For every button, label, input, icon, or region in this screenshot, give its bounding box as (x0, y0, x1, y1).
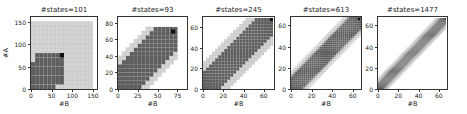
x-tick-label: 0 (116, 92, 120, 99)
y-tick-mark (200, 27, 202, 28)
y-tick-label: 0 (357, 86, 373, 93)
y-tick-mark (200, 48, 202, 49)
y-tick-label: 40 (182, 44, 198, 51)
x-tick-label: 60 (435, 92, 443, 99)
x-tick-label: 40 (415, 92, 423, 99)
y-tick-mark (200, 89, 202, 90)
x-axis-label: #B (408, 100, 418, 108)
y-tick-mark (375, 25, 377, 26)
y-tick-label: 60 (97, 36, 113, 43)
y-tick-mark (28, 44, 30, 45)
y-tick-label: 50 (10, 63, 26, 70)
heatmap-axes (202, 16, 275, 90)
x-tick-label: 75 (174, 92, 182, 99)
y-tick-label: 60 (357, 22, 373, 29)
x-tick-label: 25 (134, 92, 142, 99)
heatmap-cells (31, 17, 97, 89)
heatmap-cells (291, 17, 361, 89)
y-tick-label: 0 (270, 86, 286, 93)
y-tick-label: 40 (270, 43, 286, 50)
x-axis-label: #B (148, 100, 158, 108)
y-tick-label: 40 (357, 43, 373, 50)
heatmap-axes (117, 16, 188, 90)
heatmap-axes (290, 16, 362, 90)
x-tick-label: 50 (154, 92, 162, 99)
x-tick-label: 100 (67, 92, 78, 99)
y-tick-mark (115, 89, 117, 90)
subplot-title: #states=613 (290, 6, 362, 14)
y-tick-mark (28, 89, 30, 90)
heatmap-cells (203, 17, 274, 89)
x-tick-label: 40 (328, 92, 336, 99)
x-tick-label: 0 (289, 92, 293, 99)
y-tick-mark (200, 68, 202, 69)
y-tick-label: 20 (270, 64, 286, 71)
y-tick-mark (28, 22, 30, 23)
y-tick-mark (375, 89, 377, 90)
y-tick-label: 0 (10, 86, 26, 93)
x-tick-label: 50 (48, 92, 56, 99)
x-axis-label: #B (59, 100, 69, 108)
y-tick-label: 0 (97, 86, 113, 93)
y-tick-mark (288, 47, 290, 48)
x-tick-label: 0 (376, 92, 380, 99)
heatmap-axes (30, 16, 98, 90)
x-tick-label: 0 (201, 92, 205, 99)
y-tick-mark (288, 68, 290, 69)
y-tick-mark (375, 47, 377, 48)
y-tick-label: 20 (357, 64, 373, 71)
x-tick-label: 20 (219, 92, 227, 99)
y-tick-label: 100 (10, 41, 26, 48)
y-tick-label: 20 (182, 65, 198, 72)
y-tick-mark (375, 68, 377, 69)
y-tick-label: 150 (10, 18, 26, 25)
x-axis-label: #B (234, 100, 244, 108)
x-tick-label: 40 (240, 92, 248, 99)
heatmap-cells (118, 17, 187, 89)
x-tick-label: 150 (87, 92, 98, 99)
subplot-title: #states=245 (202, 6, 275, 14)
y-tick-mark (288, 89, 290, 90)
subplot-title: #states=1477 (377, 6, 448, 14)
y-axis-label: #A (2, 48, 10, 58)
x-tick-label: 60 (260, 92, 268, 99)
x-tick-label: 20 (394, 92, 402, 99)
subplot-title: #states=93 (117, 6, 188, 14)
y-tick-mark (115, 39, 117, 40)
y-tick-mark (115, 56, 117, 57)
y-tick-mark (288, 25, 290, 26)
x-tick-label: 20 (308, 92, 316, 99)
subplot-title: #states=101 (30, 6, 98, 14)
heatmap-cells (378, 17, 447, 89)
y-tick-mark (115, 23, 117, 24)
y-tick-mark (115, 72, 117, 73)
y-tick-label: 80 (97, 19, 113, 26)
x-axis-label: #B (321, 100, 331, 108)
y-tick-label: 20 (97, 69, 113, 76)
y-tick-label: 40 (97, 52, 113, 59)
y-tick-label: 60 (270, 22, 286, 29)
y-tick-label: 0 (182, 86, 198, 93)
y-tick-mark (28, 67, 30, 68)
x-tick-label: 60 (349, 92, 357, 99)
heatmap-axes (377, 16, 448, 90)
y-tick-label: 60 (182, 24, 198, 31)
x-tick-label: 0 (29, 92, 33, 99)
